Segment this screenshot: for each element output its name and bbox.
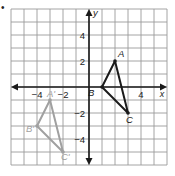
x-axis-left-arrow-icon: [11, 84, 18, 91]
x-tick-label: −2: [58, 89, 69, 100]
y-tick-label: 2: [80, 56, 85, 67]
coordinate-plane-figure: • −4−2442−2−4xy ABCA'B'C': [0, 0, 175, 176]
vertex-label: A: [117, 48, 124, 59]
x-tick-label: −4: [32, 89, 43, 100]
tick-labels: −4−2442−2−4xy: [32, 7, 165, 145]
y-tick-label: −2: [74, 108, 85, 119]
y-axis-up-arrow-icon: [86, 9, 93, 16]
y-axis-down-arrow-icon: [86, 158, 93, 165]
x-axis-label: x: [159, 89, 165, 99]
y-tick-label: 4: [80, 30, 85, 41]
vertex-point: [100, 85, 104, 89]
x-tick-label: 4: [138, 89, 143, 100]
bullet-marker: •: [1, 2, 5, 13]
vertex-label: C: [126, 114, 133, 125]
y-tick-label: −4: [74, 134, 85, 145]
vertex-point: [35, 124, 39, 128]
vertex-label: C': [61, 151, 71, 162]
vertex-label: A': [46, 88, 56, 99]
vertex-label: B: [88, 87, 95, 98]
vertex-point: [113, 59, 117, 63]
coordinate-plane: • −4−2442−2−4xy ABCA'B'C': [0, 0, 175, 176]
vertex-label: B': [26, 123, 35, 134]
